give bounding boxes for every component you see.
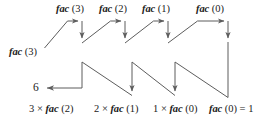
return-diagonal-3 bbox=[175, 62, 228, 98]
factorial-recursion-trace-diagram: fac (3) fac (3) fac (2) fac (1) fac (0) … bbox=[0, 0, 267, 120]
call-label-fac-0: fac (0) bbox=[196, 4, 224, 15]
entry-call-label: fac (3) bbox=[9, 47, 37, 58]
call-segment-4 bbox=[198, 21, 229, 38]
descend-diagonal-3 bbox=[168, 21, 198, 43]
final-result-label: 6 bbox=[33, 82, 39, 94]
call-label-fac-2: fac (2) bbox=[99, 4, 127, 15]
trace-flow-lines bbox=[0, 0, 267, 120]
descend-diagonal-1 bbox=[82, 21, 111, 43]
return-diagonal-2 bbox=[132, 62, 175, 96]
call-segment-1 bbox=[68, 21, 83, 38]
return-diagonal-1 bbox=[82, 62, 132, 96]
final-return-segment bbox=[47, 62, 82, 88]
entry-diagonal-segment bbox=[45, 21, 68, 48]
return-expr-label-1: 3 × fac (2) bbox=[29, 104, 73, 115]
return-expr-label-2: 2 × fac (1) bbox=[94, 104, 138, 115]
call-segment-2 bbox=[111, 21, 126, 38]
call-label-fac-1: fac (1) bbox=[142, 4, 170, 15]
call-label-fac-3: fac (3) bbox=[56, 4, 84, 15]
return-expr-label-3: 1 × fac (0) bbox=[153, 104, 197, 115]
call-segment-3 bbox=[154, 21, 169, 38]
base-case-result-label: fac (0) = 1 bbox=[209, 104, 253, 115]
descend-diagonal-2 bbox=[125, 21, 154, 43]
